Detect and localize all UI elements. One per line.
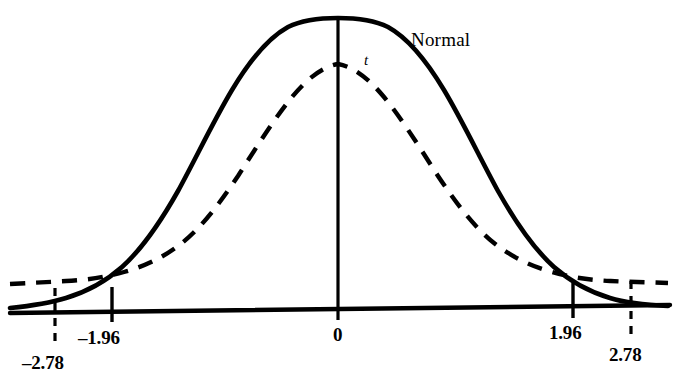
- axis-tick-label-neg-2-78: –2.78: [22, 352, 64, 374]
- axis-tick-label-zero: 0: [333, 324, 342, 346]
- x-axis-baseline: [10, 305, 670, 313]
- t-curve-label: t: [364, 52, 368, 69]
- axis-tick-label-pos-1-96: 1.96: [549, 322, 581, 344]
- axis-tick-label-neg-1-96: –1.96: [78, 327, 120, 349]
- axis-tick-label-pos-2-78: 2.78: [609, 344, 641, 366]
- normal-curve-label: Normal: [411, 29, 470, 51]
- distribution-comparison-figure: –2.78 –1.96 0 1.96 2.78 Normal t: [0, 0, 677, 385]
